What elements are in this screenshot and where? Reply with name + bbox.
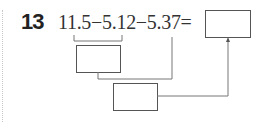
arrow-up-icon <box>226 37 230 42</box>
connector-lines <box>0 0 263 122</box>
